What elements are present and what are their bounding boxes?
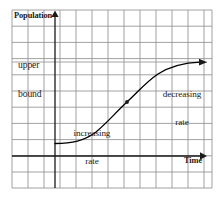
- up-arrow-icon: [51, 11, 58, 18]
- population-growth-figure: Population Time upper bound increasing r…: [0, 0, 220, 198]
- increasing-rate-label-line1: increasing: [61, 129, 123, 138]
- decreasing-rate-label-line1: decreasing: [150, 90, 214, 99]
- increasing-rate-label: increasing rate: [61, 110, 123, 185]
- decreasing-rate-label: decreasing rate: [150, 71, 214, 146]
- y-axis: [51, 11, 58, 189]
- upper-bound-label-line1: upper: [18, 60, 42, 70]
- upper-bound-label-line2: bound: [18, 89, 42, 99]
- upper-bound-label: upper bound: [18, 40, 42, 118]
- y-axis-label: Population: [14, 12, 52, 21]
- inflection-point-marker: [125, 100, 129, 104]
- increasing-rate-label-line2: rate: [61, 157, 123, 166]
- decreasing-rate-label-line2: rate: [150, 118, 214, 127]
- curve-arrow-icon: [199, 59, 207, 66]
- x-axis-label: Time: [184, 157, 202, 166]
